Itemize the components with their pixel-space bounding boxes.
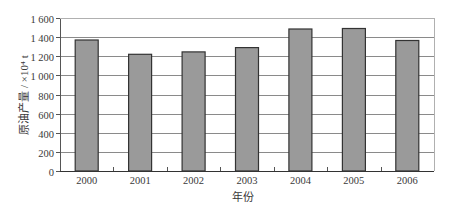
bar-2003 <box>236 48 259 171</box>
y-tick-label: 1 400 <box>30 33 54 44</box>
x-tick-label: 2002 <box>183 175 204 186</box>
bars <box>75 29 419 172</box>
y-tick-label: 0 <box>49 167 54 178</box>
bar-2006 <box>396 41 419 172</box>
x-tick-label: 2003 <box>237 175 258 186</box>
bar-2005 <box>342 29 365 172</box>
y-tick-label: 600 <box>38 110 54 121</box>
bar-2002 <box>182 52 205 171</box>
y-tick-label: 800 <box>38 91 54 102</box>
y-tick-label: 200 <box>38 148 54 159</box>
x-tick-label: 2006 <box>397 175 418 186</box>
y-tick-label: 1 600 <box>30 14 54 25</box>
x-tick-label: 2004 <box>290 175 312 186</box>
y-tick-label: 1 200 <box>30 52 54 63</box>
y-tick-labels: 02004006008001 0001 2001 4001 600 <box>30 14 54 178</box>
bar-chart: 02004006008001 0001 2001 4001 600 200020… <box>0 0 451 204</box>
x-axis-title: 年份 <box>232 190 254 203</box>
bar-2000 <box>75 40 98 171</box>
y-axis-title: 原油产量 / ×10⁴ t <box>17 55 30 134</box>
bar-2004 <box>289 29 312 171</box>
y-tick-label: 400 <box>38 129 54 140</box>
bar-2001 <box>129 54 152 171</box>
x-tick-label: 2000 <box>76 175 97 186</box>
x-tick-label: 2005 <box>343 175 364 186</box>
y-tick-label: 1 000 <box>30 71 54 82</box>
x-tick-label: 2001 <box>130 175 151 186</box>
x-tick-labels: 2000200120022003200420052006 <box>76 175 418 186</box>
